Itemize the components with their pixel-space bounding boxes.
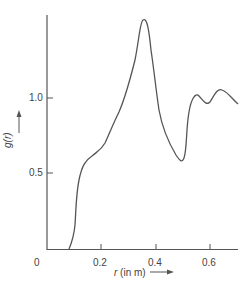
x-tick-label: 0.4: [148, 257, 162, 268]
plot-area: [0, 0, 252, 290]
x-tick-label: 0.2: [93, 257, 107, 268]
x-arrow-head-icon: [167, 270, 174, 275]
origin-label: 0: [34, 257, 40, 268]
chart: 0 0.2 0.4 0.6 1.0 0.5 r (in m) g(r): [0, 0, 252, 290]
y-axis-title: g(r): [2, 132, 13, 148]
x-axis-title: r (in m): [114, 267, 146, 278]
g-r-curve: [69, 20, 238, 249]
y-tick-label: 1.0: [29, 92, 43, 103]
x-tick-label: 0.6: [202, 257, 216, 268]
y-tick-label: 0.5: [29, 167, 43, 178]
x-axis-unit: (in m): [117, 267, 145, 278]
y-arrow-head-icon: [17, 110, 22, 117]
